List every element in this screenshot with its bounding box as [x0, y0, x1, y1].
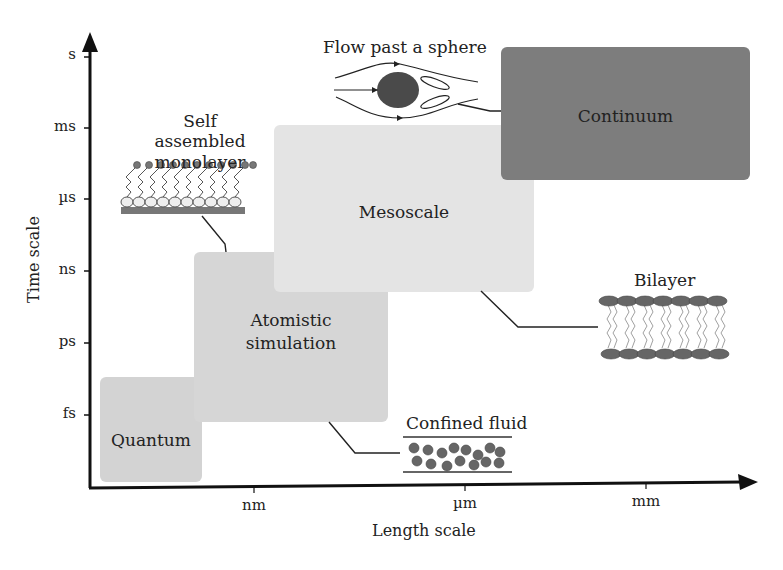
y-tick-ps: ps — [36, 332, 76, 350]
sam-caption: Self assembled monolayer — [136, 111, 264, 172]
bilayer-caption: Bilayer — [634, 270, 695, 290]
bilayer-illustration — [599, 296, 729, 359]
y-tick-ms: ms — [36, 117, 76, 135]
x-tick-mm: mm — [616, 492, 676, 510]
x-tick-um: µm — [435, 494, 495, 512]
sphere-icon — [377, 72, 419, 108]
confined-fluid-illustration — [403, 437, 512, 472]
confined-fluid-caption: Confined fluid — [406, 413, 527, 433]
y-axis-title: Time scale — [24, 216, 43, 303]
y-tick-fs: fs — [36, 404, 76, 422]
flow-caption: Flow past a sphere — [323, 37, 487, 57]
y-tick-us: µs — [36, 188, 76, 206]
x-axis-title: Length scale — [372, 521, 476, 540]
y-axis — [82, 32, 98, 488]
x-axis — [89, 474, 758, 493]
y-tick-s: s — [36, 45, 76, 63]
x-tick-nm: nm — [224, 496, 284, 514]
